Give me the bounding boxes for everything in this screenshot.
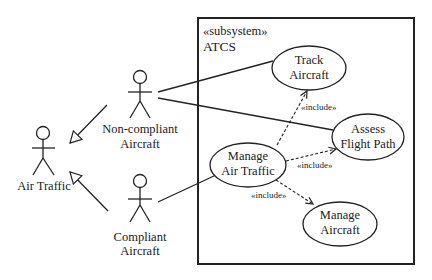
use-case-manage-air-traffic[interactable]: Manage Air Traffic <box>210 143 286 187</box>
include-label-assess: «include» <box>297 160 333 170</box>
use-case-diagram: «subsystem» ATCS «include» «include» «in… <box>0 0 432 280</box>
actor-non-compliant-aircraft[interactable]: Non-compliant Aircraft <box>102 71 178 152</box>
association-noncompliant-track <box>158 61 273 92</box>
actor-label: Air Traffic <box>17 179 71 193</box>
generalization-compliant-to-airtraffic <box>70 172 108 211</box>
use-case-label: Air Traffic <box>221 164 275 178</box>
use-case-label: Aircraft <box>289 68 329 82</box>
use-case-label: Track <box>295 53 324 67</box>
actor-label: Aircraft <box>120 137 160 151</box>
use-case-assess-flight-path[interactable]: Assess Flight Path <box>332 114 404 160</box>
actor-label: Non-compliant <box>102 122 178 136</box>
stick-figure-icon <box>128 71 152 119</box>
actor-label: Compliant <box>114 230 167 244</box>
use-case-label: Flight Path <box>340 137 396 151</box>
use-case-label: Aircraft <box>320 223 360 237</box>
use-case-label: Manage <box>228 149 269 163</box>
include-label-manage-aircraft: «include» <box>251 190 287 200</box>
association-compliant-manage-traffic <box>158 175 216 202</box>
include-track-dependency <box>277 91 307 145</box>
stick-figure-icon <box>128 175 152 223</box>
use-case-track-aircraft[interactable]: Track Aircraft <box>272 46 346 90</box>
use-case-label: Manage <box>320 208 361 222</box>
include-label-track: «include» <box>301 102 337 112</box>
use-case-label: Assess <box>351 122 385 136</box>
actor-compliant-aircraft[interactable]: Compliant Aircraft <box>114 175 167 259</box>
actor-air-traffic[interactable]: Air Traffic <box>17 127 71 194</box>
stick-figure-icon <box>32 127 55 176</box>
use-case-manage-aircraft[interactable]: Manage Aircraft <box>303 202 377 246</box>
subsystem-name: ATCS <box>203 39 236 54</box>
subsystem-stereotype: «subsystem» <box>203 24 268 38</box>
actor-label: Aircraft <box>120 244 160 258</box>
